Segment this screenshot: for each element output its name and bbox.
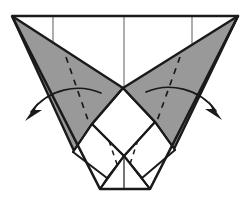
origami-diagram-svg (0, 0, 246, 209)
origami-diagram-figure (0, 0, 246, 209)
